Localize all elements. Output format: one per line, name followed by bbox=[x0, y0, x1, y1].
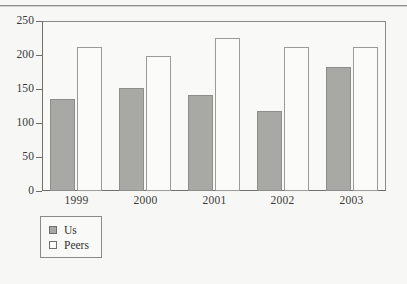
bar-chart-figure: 050100150200250 19992000200120022003 Us … bbox=[0, 0, 407, 284]
y-axis-tick-label: 0 bbox=[0, 185, 34, 197]
y-axis-tick bbox=[36, 123, 42, 124]
bar-us-2001 bbox=[188, 95, 213, 191]
bar-peers-2001 bbox=[215, 38, 240, 191]
y-axis-tick-label: 100 bbox=[0, 117, 34, 129]
x-axis-tick-label: 2000 bbox=[111, 194, 180, 207]
bar-us-1999 bbox=[50, 99, 75, 191]
y-axis-tick bbox=[36, 157, 42, 158]
x-axis-tick-label: 2001 bbox=[180, 194, 249, 207]
bar-us-2000 bbox=[119, 88, 144, 191]
legend-swatch-peers-icon bbox=[49, 241, 57, 249]
y-axis-tick-label: 250 bbox=[0, 15, 34, 27]
x-axis-tick-label: 1999 bbox=[42, 194, 111, 207]
legend-item-peers: Peers bbox=[49, 237, 89, 252]
y-axis-tick bbox=[36, 55, 42, 56]
x-axis-tick-label: 2003 bbox=[317, 194, 386, 207]
bar-us-2003 bbox=[326, 67, 351, 191]
y-axis-tick-label: 200 bbox=[0, 49, 34, 61]
legend-item-us: Us bbox=[49, 222, 89, 237]
bar-peers-2003 bbox=[353, 47, 378, 191]
page-top-rule-shadow bbox=[0, 6, 407, 7]
y-axis-tick-label: 50 bbox=[0, 151, 34, 163]
bar-peers-2000 bbox=[146, 56, 171, 191]
y-axis-line bbox=[42, 21, 43, 191]
x-axis-tick-label: 2002 bbox=[248, 194, 317, 207]
chart-legend: Us Peers bbox=[40, 216, 102, 258]
legend-swatch-us-icon bbox=[49, 226, 57, 234]
y-axis-tick bbox=[36, 191, 42, 192]
y-axis-tick-labels: 050100150200250 bbox=[0, 0, 34, 284]
legend-label-us: Us bbox=[64, 224, 77, 236]
y-axis-tick bbox=[36, 89, 42, 90]
y-axis-tick-label: 150 bbox=[0, 83, 34, 95]
bar-peers-1999 bbox=[77, 47, 102, 191]
legend-label-peers: Peers bbox=[64, 239, 89, 251]
bar-peers-2002 bbox=[284, 47, 309, 191]
y-axis-tick bbox=[36, 21, 42, 22]
bar-us-2002 bbox=[257, 111, 282, 191]
